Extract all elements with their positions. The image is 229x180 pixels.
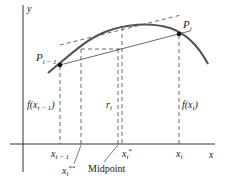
- point-p-i: [177, 32, 182, 37]
- y-axis-label: y: [26, 3, 32, 14]
- label-f-x-i: f(xi): [182, 99, 199, 112]
- leader-midpoint: [104, 145, 118, 162]
- label-f-x-i-minus-1: f(xi − 1): [27, 99, 55, 112]
- label-p-i: Pi: [182, 18, 192, 33]
- x-axis-label: x: [208, 149, 214, 160]
- label-r-i: ri: [106, 99, 112, 112]
- tick-x-i-minus-1: xi − 1: [50, 148, 69, 161]
- tick-x-i-star: xi*: [121, 147, 132, 161]
- label-p-i-minus-1: Pi − 1: [35, 51, 56, 66]
- function-curve: [48, 25, 208, 73]
- riemann-midpoint-diagram: y x Pi − 1 Pi f(xi − 1) ri f(xi) xi − 1 …: [0, 0, 229, 180]
- tangent-line: [60, 15, 181, 45]
- tick-x-i-double-star: xi**: [61, 164, 76, 178]
- leader-double-star: [74, 145, 81, 164]
- point-p-i-minus-1: [58, 63, 63, 68]
- midpoint-annotation: Midpoint: [88, 163, 125, 174]
- tick-x-i: xi: [175, 148, 182, 161]
